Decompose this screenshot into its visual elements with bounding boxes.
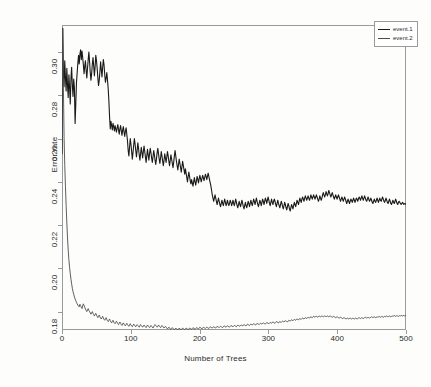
x-tick-label: 400 [322,334,352,343]
x-tick-label: 300 [253,334,283,343]
legend-swatch-2 [378,38,390,39]
x-tick-label: 500 [391,334,421,343]
legend-item-2: event.2 [378,34,413,43]
y-tick-mark [58,268,62,269]
series-line-2 [62,28,406,330]
y-tick-label: 0.30 [50,52,59,82]
y-tick-mark [58,225,62,226]
y-tick-mark [58,52,62,53]
series-line-1 [62,28,406,211]
chart-legend: event.1event.2 [374,21,418,47]
y-tick-mark [58,95,62,96]
plot-area [62,25,406,330]
y-tick-mark [58,312,62,313]
legend-label-2: event.2 [393,34,413,43]
legend-label-1: event.1 [393,25,413,34]
legend-swatch-1 [378,29,390,30]
y-tick-label: 0.20 [50,268,59,298]
x-tick-label: 200 [185,334,215,343]
legend-item-1: event.1 [378,25,413,34]
y-tick-mark [58,139,62,140]
y-tick-label: 0.26 [50,138,59,168]
y-tick-label: 0.28 [50,95,59,125]
y-tick-label: 0.24 [50,181,59,211]
x-axis-title: Number of Trees [0,354,431,363]
y-tick-label: 0.22 [50,225,59,255]
x-tick-label: 0 [47,334,77,343]
x-tick-label: 100 [116,334,146,343]
y-tick-mark [58,182,62,183]
error-rate-chart-figure: Error rate 0.180.200.220.240.260.280.30 … [0,0,431,387]
